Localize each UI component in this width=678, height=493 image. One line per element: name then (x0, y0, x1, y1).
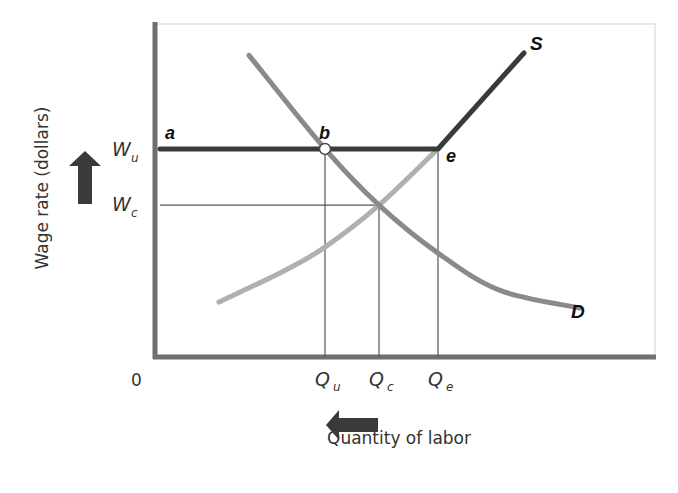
point-e-label: e (446, 146, 456, 166)
x-tick-Qc-sub: c (387, 380, 394, 394)
x-tick-Qe-sub: e (446, 380, 453, 394)
y-tick-Wu-main: W (112, 138, 132, 160)
union-wage-diagram: W u W c 0 Q u Q c Q e S D a b e Wage rat… (0, 0, 678, 493)
y-tick-Wc-main: W (112, 193, 132, 215)
point-b-marker (320, 143, 331, 154)
markers (320, 143, 331, 154)
x-tick-Qe: Q e (428, 368, 453, 394)
y-tick-Wu: W u (112, 138, 139, 165)
y-axis-title: Wage rate (dollars) (32, 107, 52, 270)
supply-curve-label: S (530, 33, 543, 54)
point-b-label: b (319, 123, 330, 143)
y-tick-Wc-sub: c (131, 206, 138, 220)
guide-lines (160, 149, 438, 357)
x-tick-Qu-sub: u (333, 380, 341, 394)
point-a-label: a (165, 123, 175, 143)
y-tick-Wc: W c (112, 193, 138, 220)
demand-curve (249, 55, 580, 308)
supply-union-curve (160, 53, 524, 149)
x-tick-Qe-main: Q (428, 368, 443, 390)
curves (160, 53, 580, 308)
wage-increase-arrow-icon (69, 151, 101, 204)
x-tick-Qu: Q u (315, 368, 341, 394)
y-tick-Wu-sub: u (131, 151, 139, 165)
x-tick-Qc-main: Q (369, 368, 384, 390)
x-tick-Qc: Q c (369, 368, 394, 394)
origin-label: 0 (131, 370, 142, 390)
x-tick-Qu-main: Q (315, 368, 330, 390)
demand-curve-label: D (571, 301, 585, 322)
